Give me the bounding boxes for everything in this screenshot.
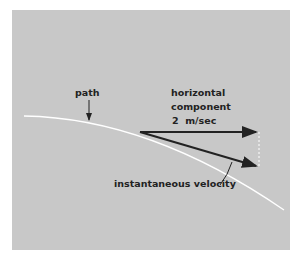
diagram-svg — [0, 0, 297, 263]
velocity-arrow — [140, 132, 256, 166]
horizontal-label-2: component — [171, 101, 231, 112]
velocity-label: instantaneous velocity — [114, 178, 236, 189]
path-label: path — [75, 87, 100, 98]
horizontal-value: 2 m/sec — [172, 115, 216, 126]
horizontal-label-1: horizontal — [171, 87, 225, 98]
